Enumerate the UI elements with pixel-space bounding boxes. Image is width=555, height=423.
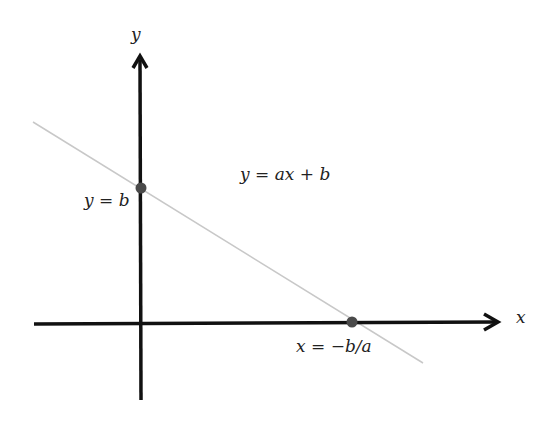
- equation-label: y = ax + b: [240, 164, 330, 184]
- y-intercept-label: y = b: [84, 190, 130, 210]
- graph-svg: [0, 0, 555, 423]
- x-axis-label: x: [516, 307, 526, 327]
- y-axis: [140, 60, 141, 400]
- x-intercept-label: x = −b/a: [296, 336, 372, 356]
- y-intercept-point: [136, 183, 147, 194]
- diagram-canvas: y x y = ax + b y = b x = −b/a: [0, 0, 555, 423]
- x-axis: [34, 322, 496, 324]
- function-line: [33, 122, 423, 363]
- y-axis-label: y: [131, 24, 141, 44]
- x-intercept-point: [347, 317, 358, 328]
